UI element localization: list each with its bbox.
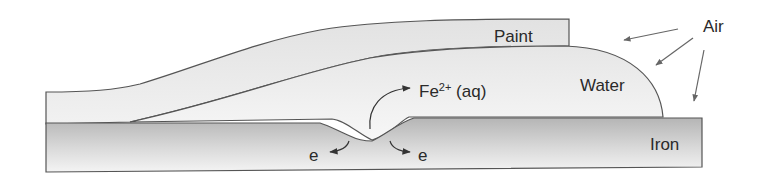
electron-label-left: e [309, 146, 318, 165]
air-arrow-paint-icon [624, 29, 678, 40]
air-arrow-water-icon [656, 38, 693, 65]
fe-ion-charge: 2+ [439, 81, 452, 93]
corrosion-diagram: Paint Water Iron Air Fe2+ (aq) e e [0, 0, 765, 176]
electron-label-right: e [418, 146, 427, 165]
water-label: Water [580, 76, 625, 95]
fe-ion-label: Fe2+ (aq) [419, 81, 486, 101]
fe-ion-state: (aq) [451, 82, 486, 101]
paint-label: Paint [494, 27, 533, 46]
air-label: Air [703, 17, 724, 36]
air-arrow-iron-icon [694, 50, 704, 101]
iron-label: Iron [650, 135, 679, 154]
fe-ion-main: Fe [419, 82, 439, 101]
